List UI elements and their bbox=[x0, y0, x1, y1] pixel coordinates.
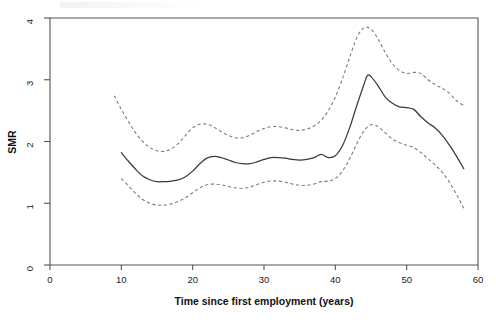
plot-frame-top-right bbox=[50, 18, 478, 265]
y-axis-title: SMR bbox=[6, 130, 18, 154]
series-path-0 bbox=[121, 75, 463, 182]
y-tick-label-1: 1 bbox=[24, 204, 35, 209]
x-tick-label-0: 0 bbox=[47, 274, 52, 285]
y-tick-label-3: 3 bbox=[24, 81, 35, 86]
series-path-1 bbox=[114, 27, 464, 151]
y-tick-label-4: 4 bbox=[24, 19, 35, 24]
figure-container: 0102030405060 01234 Time since first emp… bbox=[0, 0, 496, 322]
y-tick-label-2: 2 bbox=[24, 142, 35, 147]
smr-line-chart: 0102030405060 01234 Time since first emp… bbox=[0, 0, 496, 322]
series-path-2 bbox=[121, 125, 463, 209]
y-axis-ticks: 01234 bbox=[24, 18, 50, 271]
x-tick-label-60: 60 bbox=[473, 274, 484, 285]
y-tick-label-0: 0 bbox=[24, 266, 35, 271]
chart-series-group bbox=[114, 27, 464, 208]
x-axis-title: Time since first employment (years) bbox=[175, 295, 354, 307]
x-tick-label-30: 30 bbox=[259, 274, 270, 285]
x-tick-label-50: 50 bbox=[401, 274, 412, 285]
x-tick-label-10: 10 bbox=[116, 274, 127, 285]
x-tick-label-20: 20 bbox=[187, 274, 198, 285]
x-axis-ticks: 0102030405060 bbox=[47, 265, 483, 285]
axis-frame bbox=[50, 18, 478, 265]
x-tick-label-40: 40 bbox=[330, 274, 341, 285]
